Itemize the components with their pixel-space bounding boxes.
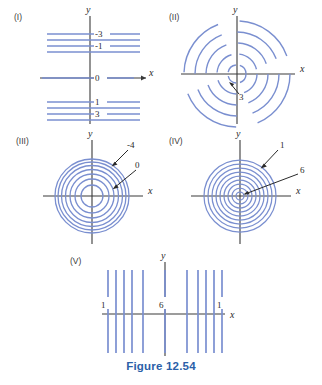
- panel-2-y-axis-label: y: [232, 4, 238, 15]
- panel-3-level-label-minus4: -4: [127, 140, 135, 150]
- panel-5-roman-numeral: (V): [70, 256, 82, 266]
- panel-1-level-label-three: 3: [95, 109, 100, 119]
- panel-1-x-axis-label: x: [148, 67, 154, 78]
- figure-caption: Figure 12.54: [0, 360, 322, 372]
- panel-3-y-axis-label: y: [87, 128, 93, 139]
- figure-container: (I) -3 -1 0: [0, 0, 322, 385]
- panel-5-vertical-lines: (V) 1 6 1: [60, 248, 260, 360]
- panel-3-svg: (III) -4 0 y x: [0, 126, 161, 250]
- panel-4-y-axis-label: y: [235, 128, 241, 139]
- panel-1-x-axis-arrowhead: [141, 76, 146, 81]
- panel-4-pointer-arrowhead-outer: [261, 164, 267, 169]
- panel-5-level-label-left-one: 1: [101, 300, 106, 310]
- panel-4-x-axis-label: x: [295, 185, 301, 196]
- panel-4-level-label-six: 6: [300, 165, 305, 175]
- panel-4-concentric-circles: (IV) 1 6 y x: [161, 126, 322, 250]
- panel-4-roman-numeral: (IV): [169, 136, 183, 146]
- panel-1-roman-numeral: (I): [14, 12, 22, 22]
- panel-1-level-label-minus1: -1: [95, 41, 103, 51]
- panel-2-x-axis-label: x: [299, 63, 305, 74]
- panel-4-svg: (IV) 1 6 y x: [161, 126, 322, 250]
- panel-1-y-axis-label: y: [85, 4, 91, 15]
- panel-2-dashed-circles: (II) 3 y x: [161, 2, 322, 128]
- panel-2-roman-numeral: (II): [169, 12, 180, 22]
- panel-3-pointer-arrowhead-outer: [112, 162, 118, 167]
- panel-5-level-label-six: 6: [159, 300, 164, 310]
- panel-2-svg: (II) 3 y x: [161, 2, 322, 128]
- panel-3-roman-numeral: (III): [16, 136, 29, 146]
- panel-1-level-label-zero: 0: [95, 73, 100, 83]
- panel-5-x-axis-label: x: [229, 309, 235, 320]
- panel-3-concentric-circles: (III) -4 0 y x: [0, 126, 161, 250]
- panel-4-level-label-one: 1: [280, 140, 285, 150]
- panel-1-svg: (I) -3 -1 0: [0, 2, 161, 128]
- panel-5-level-label-right-one: 1: [217, 300, 222, 310]
- panel-3-x-axis-label: x: [147, 185, 153, 196]
- panel-5-svg: (V) 1 6 1: [60, 248, 260, 360]
- panel-1-horizontal-lines: (I) -3 -1 0: [0, 2, 161, 128]
- panel-5-y-axis-label: y: [160, 250, 166, 261]
- panel-2-level-label-three: 3: [239, 92, 244, 102]
- panel-3-level-label-zero: 0: [135, 160, 140, 170]
- panel-1-level-label-minus3: -3: [95, 29, 103, 39]
- panel-1-level-label-one: 1: [95, 97, 100, 107]
